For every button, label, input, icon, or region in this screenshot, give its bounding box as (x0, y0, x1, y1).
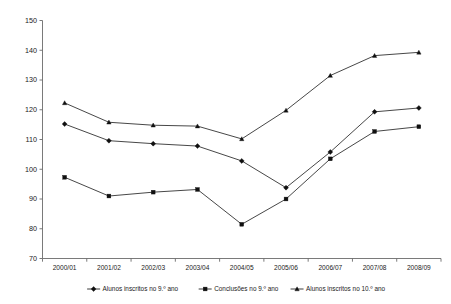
x-tick-label: 2002/03 (141, 264, 165, 271)
data-point-marker (196, 188, 200, 192)
x-tick-label: 2006/07 (318, 264, 342, 271)
legend-label: Alunos inscritos no 10.º ano (306, 285, 386, 292)
data-point-marker (240, 222, 244, 226)
data-point-marker (107, 194, 111, 198)
y-tick-label: 130 (25, 75, 37, 84)
y-tick-label: 140 (25, 46, 37, 55)
x-tick-label: 2004/05 (230, 264, 254, 271)
chart-canvas: 150140130120110100908070 2000/012001/022… (0, 0, 451, 304)
x-tick-label: 2008/09 (407, 264, 431, 271)
x-tick-label: 2000/01 (53, 264, 77, 271)
data-point-marker (373, 130, 377, 134)
legend-label: Conclusões no 9.º ano (214, 285, 279, 292)
x-tick-label: 2001/02 (97, 264, 121, 271)
y-tick-label: 150 (25, 16, 37, 25)
y-tick-label: 80 (29, 224, 37, 233)
y-tick-label: 120 (25, 105, 37, 114)
data-point-marker (203, 287, 207, 291)
line-chart: 150140130120110100908070 2000/012001/022… (0, 0, 451, 304)
data-point-marker (63, 175, 67, 179)
x-tick-label: 2005/06 (274, 264, 298, 271)
y-tick-label: 70 (29, 254, 37, 263)
legend-label: Alunos inscritos no 9.º ano (103, 285, 179, 292)
chart-legend: Alunos inscritos no 9.º anoConclusões no… (87, 285, 385, 292)
data-point-marker (417, 125, 421, 129)
x-tick-label: 2007/08 (363, 264, 387, 271)
data-point-marker (151, 190, 155, 194)
y-tick-label: 110 (26, 135, 37, 144)
data-point-marker (284, 197, 288, 201)
y-tick-label: 100 (25, 165, 37, 174)
x-tick-label: 2003/04 (186, 264, 210, 271)
y-tick-label: 90 (29, 194, 37, 203)
data-point-marker (328, 157, 332, 161)
